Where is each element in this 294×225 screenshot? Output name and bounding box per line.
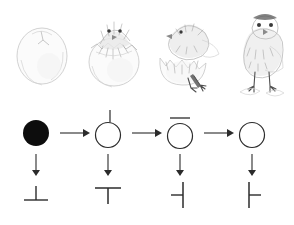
illustration-chick-head-emerging [78,0,150,104]
arrow-state-2-to-3 [130,126,164,140]
illustration-intact-egg [8,0,78,104]
figure-root [0,0,294,225]
arrow-state-1-to-2 [58,126,92,140]
illustration-hatched-chick-standing [226,0,294,104]
glyph-left-tack [152,180,208,214]
state-filled-circle [8,108,64,154]
illustration-chick-climbing-out [150,0,226,104]
glyph-right-tack [224,180,280,214]
glyph-up-tack [8,180,64,214]
arrow-state-3-to-glyph-3 [165,152,195,178]
arrow-state-2-to-glyph-2 [93,152,123,178]
arrow-state-4-to-glyph-4 [237,152,267,178]
glyph-down-tack [80,180,136,214]
arrow-state-3-to-4 [202,126,236,140]
illustration-row [0,0,294,104]
state-diagram [0,104,294,225]
arrow-state-1-to-glyph-1 [21,152,51,178]
